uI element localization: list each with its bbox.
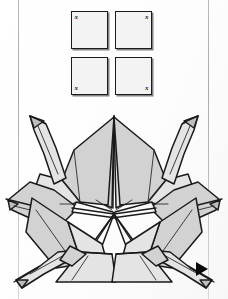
head-upper-left [30, 116, 66, 184]
paper-square-bottom-left: x [71, 57, 108, 95]
crane-ring-assembly: .pf { fill:#d2d2d2; stroke:#1a1a1a; stro… [0, 104, 228, 294]
next-step-arrow[interactable] [196, 262, 208, 276]
paper-square-top-left: x [71, 11, 108, 49]
paper-square-bottom-right: x [115, 57, 152, 95]
corner-x-mark: x [75, 14, 79, 21]
paper-square-top-right: x [115, 11, 152, 49]
corner-x-mark: x [145, 14, 149, 21]
corner-x-mark: x [145, 85, 149, 92]
corner-x-mark: x [75, 85, 79, 92]
diagram-page: x x x x .pf { fill:#d2d2d2; stroke:#1a1a… [0, 0, 228, 299]
head-upper-right [162, 116, 198, 184]
four-squares-diagram: x x x x [71, 11, 154, 96]
